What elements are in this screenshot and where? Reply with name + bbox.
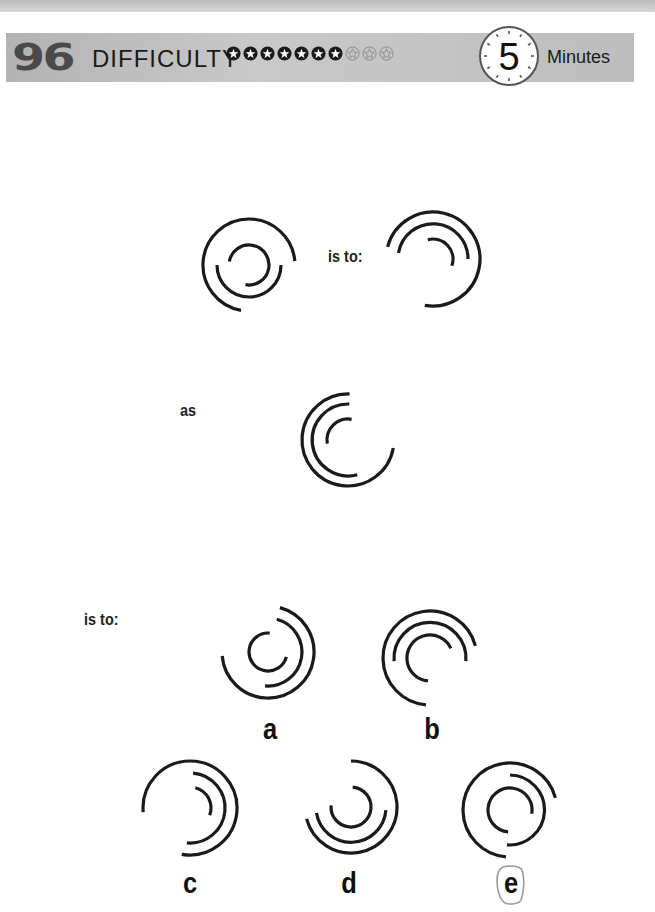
arc-segment	[327, 419, 352, 444]
arc-segment	[143, 761, 237, 855]
arc-segment	[249, 633, 286, 671]
figure-3[interactable]	[302, 394, 393, 486]
figure-e[interactable]	[463, 763, 555, 857]
figure-a[interactable]	[222, 608, 314, 698]
option-e[interactable]: e	[494, 866, 528, 900]
figure-b[interactable]	[383, 611, 475, 705]
arc-segment	[229, 245, 269, 285]
arc-segment	[302, 394, 393, 486]
arc-segment	[394, 622, 466, 661]
arc-segment	[507, 775, 545, 845]
arc-segment	[265, 619, 302, 686]
arc-segment	[399, 224, 469, 259]
option-a[interactable]: a	[253, 712, 287, 746]
arc-segment	[428, 239, 453, 266]
option-c[interactable]: c	[173, 866, 207, 900]
arc-segment	[187, 773, 225, 843]
arc-segment	[217, 265, 281, 297]
arc-segment	[488, 788, 532, 832]
puzzle-figures	[0, 0, 655, 912]
figure-2[interactable]	[388, 212, 480, 306]
arc-segment	[463, 763, 555, 857]
option-b[interactable]: b	[415, 712, 449, 746]
figure-d[interactable]	[307, 761, 397, 853]
arc-segment	[331, 787, 371, 827]
arc-segment	[388, 212, 480, 306]
arc-segment	[307, 761, 397, 853]
arc-segment	[407, 635, 451, 681]
arc-segment	[195, 788, 211, 816]
figure-c[interactable]	[143, 761, 237, 855]
arc-segment	[383, 611, 475, 705]
option-d[interactable]: d	[332, 866, 366, 900]
arc-segment	[312, 404, 357, 476]
figure-1[interactable]	[203, 219, 295, 310]
